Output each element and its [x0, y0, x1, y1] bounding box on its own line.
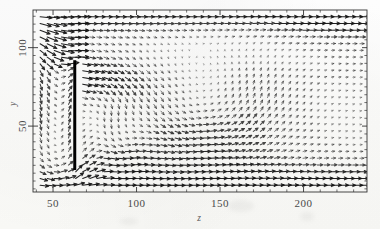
quiver-arrow [147, 137, 152, 139]
quiver-arrow [274, 68, 276, 71]
quiver-arrow [40, 158, 43, 162]
quiver-arrow [225, 15, 233, 18]
quiver-arrow [132, 43, 135, 45]
quiver-arrow [353, 76, 355, 78]
quiver-arrow [275, 143, 279, 145]
quiver-arrow [161, 29, 166, 31]
quiver-arrow [303, 164, 309, 166]
quiver-arrow [282, 49, 284, 51]
quiver-arrow [132, 118, 134, 121]
quiver-arrow [61, 83, 65, 85]
quiver-arrow [246, 36, 249, 38]
quiver-arrow [161, 138, 167, 140]
quiver-arrow [296, 62, 298, 64]
quiver-arrow [61, 109, 63, 111]
quiver-arrow [282, 81, 284, 84]
quiver-arrow [182, 36, 184, 38]
quiver-arrow [268, 114, 271, 118]
quiver-arrow [289, 56, 291, 58]
quiver-arrow [118, 138, 121, 140]
quiver-arrow [289, 49, 291, 51]
quiver-arrow [97, 64, 104, 66]
quiver-arrow [225, 156, 232, 159]
quiver-arrow [224, 50, 225, 52]
quiver-arrow [246, 121, 251, 125]
quiver-arrow [239, 22, 245, 24]
quiver-arrow [338, 110, 340, 111]
quiver-arrow [161, 104, 164, 108]
quiver-arrow [40, 138, 42, 143]
quiver-arrow [125, 43, 128, 45]
quiver-arrow [210, 70, 211, 72]
quiver-arrow [118, 64, 123, 67]
quiver-arrow [275, 36, 279, 38]
quiver-arrow [353, 164, 358, 166]
quiver-arrow [69, 112, 71, 118]
quiver-arrow [303, 29, 310, 31]
quiver-arrow [331, 144, 334, 146]
quiver-arrow [324, 43, 328, 45]
quiver-arrow [104, 64, 110, 66]
quiver-arrow [218, 29, 222, 31]
quiver-arrow [225, 108, 228, 111]
quiver-arrow [203, 84, 205, 85]
quiver-arrow [61, 115, 63, 118]
quiver-arrow [168, 131, 174, 133]
quiver-arrow [353, 131, 355, 133]
quiver-arrow [154, 64, 156, 66]
quiver-arrow [140, 71, 144, 74]
quiver-arrow [231, 49, 232, 51]
quiver-arrow [317, 49, 320, 51]
quiver-arrow [211, 136, 218, 138]
quiver-arrow [239, 101, 241, 105]
quiver-arrow [246, 100, 248, 104]
quiver-arrow [324, 110, 326, 112]
quiver-arrow [239, 87, 241, 91]
quiver-arrow [211, 15, 219, 18]
quiver-arrow [204, 22, 210, 24]
quiver-arrow [225, 22, 231, 24]
quiver-arrow [239, 142, 245, 144]
quiver-arrow [238, 68, 240, 71]
quiver-arrow [54, 104, 56, 106]
quiver-arrow [346, 110, 348, 111]
quiver-arrow [182, 70, 184, 72]
quiver-arrow [317, 110, 319, 112]
quiver-arrow [296, 49, 298, 51]
quiver-arrow [338, 117, 340, 118]
quiver-arrow [282, 36, 286, 38]
quiver-arrow [69, 73, 73, 77]
quiver-arrow [168, 151, 175, 153]
quiver-arrow [303, 130, 306, 132]
quiver-arrow [175, 91, 177, 94]
quiver-arrow [147, 131, 151, 133]
quiver-arrow [232, 94, 234, 97]
quiver-arrow [196, 110, 199, 112]
quiver-arrow [196, 43, 198, 44]
quiver-arrow [296, 69, 298, 71]
quiver-arrow [161, 22, 167, 24]
quiver-arrow [97, 98, 101, 101]
quiver-arrow [175, 138, 181, 140]
quiver-arrow-layer [40, 15, 370, 187]
quiver-arrow [203, 57, 205, 58]
quiver-arrow [195, 70, 197, 71]
quiver-arrow [104, 104, 106, 108]
quiver-arrow [203, 43, 205, 44]
quiver-arrow [90, 50, 95, 52]
quiver-arrow [224, 56, 225, 58]
quiver-arrow [189, 29, 193, 31]
quiver-arrow [231, 68, 233, 70]
quiver-arrow [232, 22, 238, 24]
quiver-arrow [147, 71, 151, 74]
quiver-arrow [90, 168, 98, 172]
quiver-arrow [147, 104, 149, 108]
quiver-arrow [175, 164, 183, 167]
quiver-arrow [224, 43, 226, 45]
quiver-arrow [289, 136, 292, 138]
quiver-arrow [140, 84, 144, 88]
quiver-arrow [353, 90, 355, 92]
quiver-arrow [296, 43, 299, 45]
quiver-arrow [47, 91, 49, 96]
quiver-arrow [83, 168, 90, 172]
